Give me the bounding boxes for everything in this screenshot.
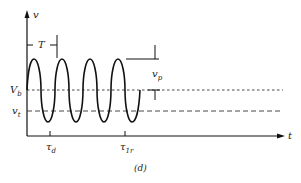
vp-label: vp [152, 69, 162, 82]
x-axis-label: t [288, 131, 292, 141]
td-label: τd [46, 142, 56, 155]
period-label: T [38, 40, 45, 50]
t1r-label: τ1r [120, 142, 133, 155]
vt-label: vt [12, 106, 20, 119]
y-axis-arrow-icon [25, 10, 30, 18]
waveform-diagram [0, 0, 301, 183]
oscillation-waveform [27, 59, 140, 122]
x-axis-arrow-icon [277, 134, 285, 139]
vb-label: Vb [10, 85, 22, 98]
y-axis-label: v [33, 10, 39, 20]
panel-label: (d) [134, 164, 147, 173]
